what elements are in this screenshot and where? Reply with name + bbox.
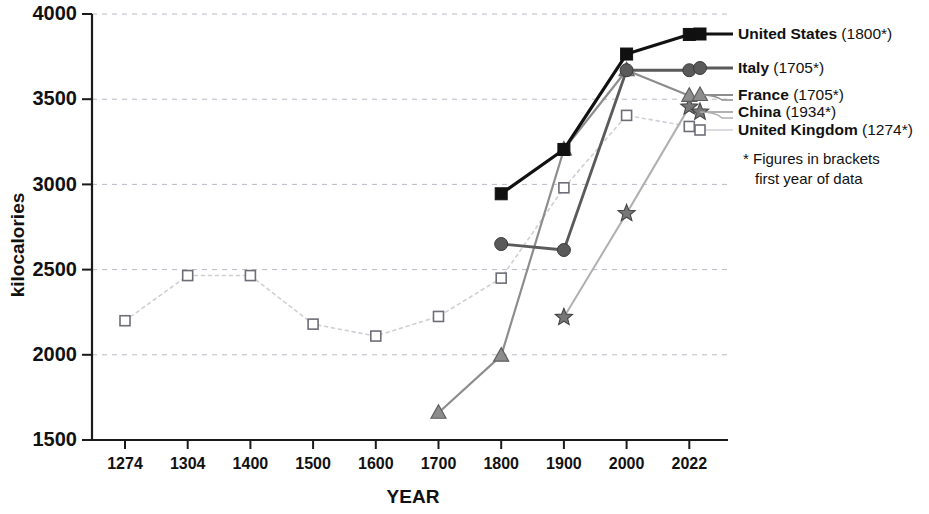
- data-point-filled-square: [694, 28, 706, 40]
- data-point-open-square: [684, 121, 694, 131]
- marker-star: [618, 204, 635, 220]
- marker-open-square: [496, 273, 506, 283]
- x-axis-tick-label: 1400: [233, 455, 269, 472]
- data-point-open-square: [496, 273, 506, 283]
- data-point-open-square: [183, 271, 193, 281]
- data-point-open-square: [695, 125, 705, 135]
- marker-filled-square: [694, 28, 706, 40]
- marker-open-square: [308, 319, 318, 329]
- footnote-line-2: first year of data: [755, 170, 863, 187]
- marker-star: [555, 308, 572, 324]
- data-point-filled-square: [495, 188, 507, 200]
- series-group: [120, 28, 698, 418]
- x-axis-tick-label: 1500: [295, 455, 331, 472]
- marker-open-square: [559, 183, 569, 193]
- legend-item-france[interactable]: France (1705*): [693, 86, 844, 103]
- data-point-filled-circle: [495, 238, 508, 251]
- marker-open-square: [120, 316, 130, 326]
- marker-filled-triangle: [693, 87, 708, 101]
- legend-item-united-kingdom[interactable]: United Kingdom (1274*): [695, 121, 913, 138]
- axis-lines: [92, 14, 728, 440]
- marker-open-square: [434, 311, 444, 321]
- data-point-open-square: [245, 271, 255, 281]
- marker-filled-square: [495, 188, 507, 200]
- marker-open-square: [183, 271, 193, 281]
- series-italy: [495, 64, 696, 257]
- series-united-states: [495, 28, 695, 199]
- marker-open-square: [245, 271, 255, 281]
- marker-filled-circle: [557, 244, 570, 257]
- data-point-open-square: [434, 311, 444, 321]
- data-point-filled-circle: [557, 244, 570, 257]
- y-axis-tick-label: 1500: [33, 428, 78, 450]
- legend-label: United Kingdom (1274*): [738, 121, 913, 138]
- y-axis-tick-label: 2500: [33, 258, 78, 280]
- y-axis-tick-label: 4000: [33, 2, 78, 24]
- y-axis-title: kilocalories: [7, 193, 28, 298]
- x-axis-tick-label: 1800: [483, 455, 519, 472]
- x-axis-tick-label: 2000: [609, 455, 645, 472]
- x-axis-tick-label: 1600: [358, 455, 394, 472]
- y-axis-tick-label: 3500: [33, 87, 78, 109]
- series-line: [125, 115, 689, 336]
- data-point-filled-circle: [620, 64, 633, 77]
- marker-filled-square: [558, 143, 570, 155]
- x-axis-tick-label: 1274: [107, 455, 143, 472]
- data-point-open-square: [120, 316, 130, 326]
- data-point-open-square: [622, 110, 632, 120]
- legend-label: China (1934*): [738, 103, 836, 120]
- marker-filled-circle: [495, 238, 508, 251]
- x-axis-tick-label: 1304: [170, 455, 206, 472]
- data-point-open-square: [308, 319, 318, 329]
- marker-filled-square: [621, 48, 633, 60]
- series-line: [501, 34, 689, 193]
- legend: United States (1800*)Italy (1705*)France…: [691, 25, 912, 138]
- series-france: [431, 62, 697, 418]
- data-point-filled-triangle: [693, 87, 708, 101]
- data-point-star: [555, 308, 572, 324]
- axes-group: 1274130414001500160017001800190020002022: [92, 14, 728, 472]
- data-point-filled-square: [621, 48, 633, 60]
- footnote-line-1: * Figures in brackets: [743, 150, 880, 167]
- x-axis-tick-label: 1700: [421, 455, 457, 472]
- legend-label: Italy (1705*): [738, 59, 824, 76]
- x-axis-title: YEAR: [387, 486, 440, 507]
- marker-open-square: [622, 110, 632, 120]
- x-axis-tick-label: 1900: [546, 455, 582, 472]
- data-point-filled-circle: [694, 62, 707, 75]
- legend-label: France (1705*): [738, 86, 844, 103]
- data-point-open-square: [371, 331, 381, 341]
- series-line: [501, 70, 689, 250]
- legend-item-united-states[interactable]: United States (1800*): [694, 25, 892, 42]
- line-chart: 1500200025003000350040001274130414001500…: [0, 0, 929, 514]
- legend-label: United States (1800*): [738, 25, 892, 42]
- legend-item-china[interactable]: China (1934*): [691, 103, 836, 120]
- y-axis-tick-label: 3000: [33, 173, 78, 195]
- marker-open-square: [684, 121, 694, 131]
- marker-open-square: [695, 125, 705, 135]
- legend-footnote: * Figures in bracketsfirst year of data: [743, 150, 880, 187]
- series-line: [439, 70, 690, 413]
- marker-filled-circle: [694, 62, 707, 75]
- data-point-open-square: [559, 183, 569, 193]
- data-point-filled-square: [558, 143, 570, 155]
- marker-filled-circle: [620, 64, 633, 77]
- legend-item-italy[interactable]: Italy (1705*): [694, 59, 825, 76]
- series-united-kingdom: [120, 110, 694, 341]
- data-point-star: [618, 204, 635, 220]
- marker-open-square: [371, 331, 381, 341]
- y-axis-tick-label: 2000: [33, 343, 78, 365]
- x-axis-tick-label: 2022: [672, 455, 708, 472]
- chart-container: 1500200025003000350040001274130414001500…: [0, 0, 929, 514]
